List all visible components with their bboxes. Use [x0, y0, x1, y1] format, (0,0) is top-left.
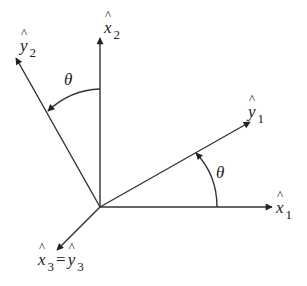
theta-arc-right: [196, 153, 217, 207]
x3-y3-label: x3=y3: [38, 250, 84, 275]
x1-label: x1: [276, 198, 292, 223]
theta-arc-top: [48, 89, 100, 111]
x3-axis: [57, 207, 100, 250]
x2-label: x2: [104, 18, 120, 43]
y1-axis: [100, 122, 250, 207]
theta-label-top: θ: [64, 70, 72, 90]
y2-axis: [16, 58, 100, 207]
axes-diagram: [0, 0, 307, 286]
y1-label: y1: [248, 102, 264, 127]
theta-label-right: θ: [216, 163, 224, 183]
y2-label: y2: [20, 36, 36, 61]
